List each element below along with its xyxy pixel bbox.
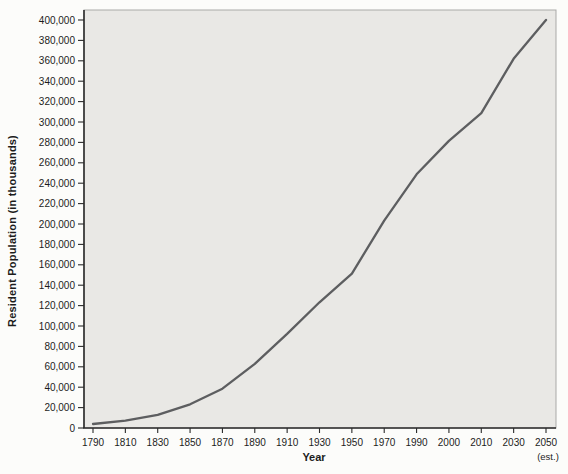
y-tick-label: 100,000 xyxy=(39,321,76,332)
y-tick-label: 60,000 xyxy=(44,361,75,372)
x-tick-label: 1850 xyxy=(179,437,202,448)
y-tick-label: 280,000 xyxy=(39,137,76,148)
y-tick-label: 200,000 xyxy=(39,219,76,230)
population-line-chart: 020,00040,00060,00080,000100,000120,0001… xyxy=(0,0,568,474)
plot-background xyxy=(84,10,556,428)
x-tick-label: 1830 xyxy=(147,437,170,448)
x-tick-label: 1910 xyxy=(276,437,299,448)
y-tick-label: 120,000 xyxy=(39,300,76,311)
y-tick-label: 40,000 xyxy=(44,382,75,393)
y-tick-label: 160,000 xyxy=(39,259,76,270)
y-tick-label: 0 xyxy=(69,423,75,434)
y-tick-label: 340,000 xyxy=(39,76,76,87)
x-tick-label: 1870 xyxy=(211,437,234,448)
y-tick-label: 400,000 xyxy=(39,15,76,26)
y-tick-label: 320,000 xyxy=(39,96,76,107)
x-tick-label: 1930 xyxy=(308,437,331,448)
x-tick-label: 2030 xyxy=(503,437,526,448)
y-tick-label: 220,000 xyxy=(39,198,76,209)
x-tick-label: 1990 xyxy=(405,437,428,448)
scanned-chart-page: Resident Population (in thousands) 020,0… xyxy=(0,0,568,474)
x-tick-label: 1810 xyxy=(114,437,137,448)
y-tick-label: 240,000 xyxy=(39,178,76,189)
x-tick-label: 2000 xyxy=(438,437,461,448)
y-tick-label: 180,000 xyxy=(39,239,76,250)
y-tick-label: 360,000 xyxy=(39,55,76,66)
y-axis-ticks: 020,00040,00060,00080,000100,000120,0001… xyxy=(39,15,84,434)
y-tick-label: 300,000 xyxy=(39,117,76,128)
x-tick-label: 1970 xyxy=(373,437,396,448)
y-tick-label: 20,000 xyxy=(44,402,75,413)
x-axis-title: Year xyxy=(84,451,544,463)
x-tick-label: 1790 xyxy=(82,437,105,448)
y-tick-label: 260,000 xyxy=(39,157,76,168)
y-tick-label: 80,000 xyxy=(44,341,75,352)
y-tick-label: 140,000 xyxy=(39,280,76,291)
x-tick-label: 2050 xyxy=(535,437,558,448)
x-tick-label: 1890 xyxy=(244,437,267,448)
x-tick-label: 2010 xyxy=(470,437,493,448)
y-tick-label: 380,000 xyxy=(39,35,76,46)
x-tick-label: 1950 xyxy=(341,437,364,448)
